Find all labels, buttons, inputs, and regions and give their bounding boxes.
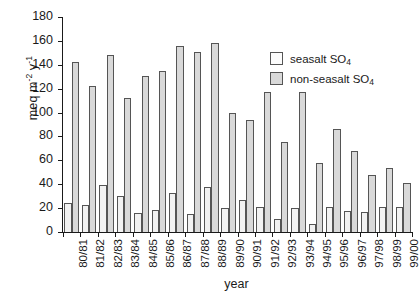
x-axis-tick-label-93-94: 93/94	[304, 239, 316, 268]
x-axis-tick	[133, 232, 134, 237]
bar-non-seasalt-96-97	[351, 151, 358, 232]
bar-non-seasalt-93-94	[299, 92, 306, 232]
x-axis-tick-label-80-81: 80/81	[77, 239, 89, 268]
x-axis-tick-label-92-93: 92/93	[286, 239, 298, 268]
bar-non-seasalt-82-83	[107, 55, 114, 232]
x-axis-tick-label-87-88: 87/88	[199, 239, 211, 268]
bar-non-seasalt-94-95	[316, 163, 323, 232]
bar-seasalt-98-99	[379, 207, 386, 232]
x-axis-tick	[203, 232, 204, 237]
bar-non-seasalt-80-81	[72, 62, 79, 232]
bar-seasalt-92-93	[274, 219, 281, 232]
chart-legend: seasalt SO4 non-seasalt SO4	[270, 52, 374, 92]
bar-seasalt-88-89	[204, 187, 211, 232]
x-axis-tick-label-99-00: 99/00	[408, 239, 420, 268]
legend-label-seasalt-text: seasalt SO	[290, 53, 346, 65]
bar-seasalt-96-97	[344, 211, 351, 233]
x-axis-tick-label-89-90: 89/90	[234, 239, 246, 268]
bar-non-seasalt-86-87	[176, 46, 183, 232]
x-axis-tick	[220, 232, 221, 237]
bar-seasalt-82-83	[99, 185, 106, 232]
y-axis-tick-label: 120	[9, 81, 53, 95]
x-axis-tick-label-88-89: 88/89	[216, 239, 228, 268]
x-axis-tick	[150, 232, 151, 237]
bar-non-seasalt-83-84	[124, 98, 131, 232]
bar-seasalt-90-91	[239, 200, 246, 232]
bar-group-container	[63, 17, 412, 232]
legend-item-seasalt: seasalt SO4	[270, 52, 374, 65]
bar-seasalt-99-00	[396, 207, 403, 232]
bar-non-seasalt-88-89	[211, 43, 218, 232]
y-axis-tick-label: 80	[9, 128, 53, 142]
x-axis-tick	[272, 232, 273, 237]
x-axis-tick-label-97-98: 97/98	[373, 239, 385, 268]
x-axis-tick	[255, 232, 256, 237]
bar-non-seasalt-97-98	[368, 175, 375, 232]
bar-non-seasalt-90-91	[246, 120, 253, 232]
x-axis-tick-label-82-83: 82/83	[112, 239, 124, 268]
x-axis-tick-label-91-92: 91/92	[269, 239, 281, 268]
x-axis-tick-label-96-97: 96/97	[356, 239, 368, 268]
bar-seasalt-86-87	[169, 193, 176, 232]
x-axis-tick	[360, 232, 361, 237]
y-axis-tick-label: 20	[9, 200, 53, 214]
bar-non-seasalt-92-93	[281, 142, 288, 232]
x-axis-tick	[168, 232, 169, 237]
legend-label-non-seasalt: non-seasalt SO4	[290, 73, 374, 85]
x-axis-tick-label-90-91: 90/91	[251, 239, 263, 268]
y-axis-tick-label: 100	[9, 105, 53, 119]
bar-seasalt-83-84	[117, 196, 124, 232]
x-axis-tick-label-84-85: 84/85	[147, 239, 159, 268]
x-axis-tick	[325, 232, 326, 237]
x-axis-tick-label-95-96: 95/96	[338, 239, 350, 268]
bar-non-seasalt-81-82	[89, 86, 96, 232]
y-axis-tick-label: 180	[9, 9, 53, 23]
x-axis-tick	[377, 232, 378, 237]
x-axis-tick	[290, 232, 291, 237]
x-axis-tick	[63, 232, 64, 237]
y-axis-tick-label: 140	[9, 57, 53, 71]
bar-seasalt-85-86	[152, 210, 159, 232]
y-axis-tick-label: 40	[9, 176, 53, 190]
x-axis-tick-label-85-86: 85/86	[164, 239, 176, 268]
x-axis-tick	[115, 232, 116, 237]
x-axis-tick-label-81-82: 81/82	[94, 239, 106, 268]
y-axis-tick-label: 160	[9, 33, 53, 47]
legend-item-non-seasalt: non-seasalt SO4	[270, 72, 374, 85]
bar-non-seasalt-85-86	[159, 71, 166, 232]
bar-seasalt-81-82	[82, 205, 89, 232]
x-axis-tick	[185, 232, 186, 237]
x-axis-title: year	[62, 277, 411, 291]
x-axis-tick	[238, 232, 239, 237]
bar-non-seasalt-87-88	[194, 52, 201, 232]
bar-seasalt-93-94	[291, 208, 298, 232]
y-axis-tick-label: 0	[9, 224, 53, 238]
legend-label-non-seasalt-text: non-seasalt SO	[290, 73, 369, 85]
bar-non-seasalt-89-90	[229, 113, 236, 232]
bar-seasalt-84-85	[134, 213, 141, 232]
x-axis-tick	[80, 232, 81, 237]
x-axis-tick	[98, 232, 99, 237]
legend-label-non-seasalt-subscript: 4	[369, 77, 374, 87]
plot-area: 020406080100120140160180 80/8181/8282/83…	[62, 17, 411, 232]
x-axis-tick	[342, 232, 343, 237]
x-axis-tick-label-86-87: 86/87	[181, 239, 193, 268]
x-axis-tick	[307, 232, 308, 237]
legend-swatch-non-seasalt	[270, 72, 283, 85]
y-axis-tick-label: 60	[9, 152, 53, 166]
x-axis-tick	[412, 232, 413, 237]
bar-seasalt-80-81	[64, 203, 71, 232]
bar-non-seasalt-95-96	[333, 129, 340, 232]
x-axis-tick-label-98-99: 98/99	[391, 239, 403, 268]
legend-swatch-seasalt	[270, 52, 283, 65]
bar-non-seasalt-91-92	[264, 92, 271, 232]
x-axis-tick-label-94-95: 94/95	[321, 239, 333, 268]
bar-seasalt-91-92	[256, 207, 263, 232]
x-axis-tick	[395, 232, 396, 237]
legend-label-seasalt-subscript: 4	[346, 57, 351, 67]
bar-seasalt-94-95	[309, 224, 316, 232]
bar-non-seasalt-99-00	[403, 183, 410, 232]
bar-non-seasalt-84-85	[142, 76, 149, 232]
bar-seasalt-95-96	[326, 207, 333, 232]
